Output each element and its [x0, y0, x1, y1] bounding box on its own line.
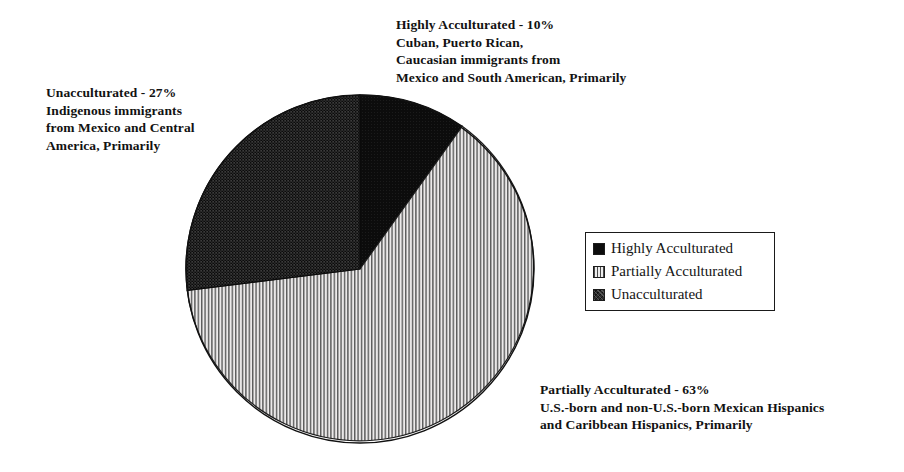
callout-highly-acculturated: Highly Acculturated - 10% Cuban, Puerto … — [396, 16, 626, 86]
pie-chart-figure: Unacculturated - 27% Indigenous immigran… — [0, 0, 904, 472]
legend-label-highly-acculturated: Highly Acculturated — [611, 240, 733, 257]
callout-partially-line-2: U.S.-born and non-U.S.-born Mexican Hisp… — [540, 399, 824, 417]
callout-unacculturated-line-2: Indigenous immigrants — [46, 102, 195, 120]
chart-legend: Highly Acculturated Partially Acculturat… — [585, 232, 775, 311]
callout-highly-line-2: Cuban, Puerto Rican, — [396, 34, 626, 52]
legend-swatch-highly-acculturated-icon — [593, 243, 605, 255]
legend-label-unacculturated: Unacculturated — [611, 286, 703, 303]
legend-label-partially-acculturated: Partially Acculturated — [611, 263, 742, 280]
legend-swatch-unacculturated-icon — [593, 289, 605, 301]
callout-highly-line-1: Highly Acculturated - 10% — [396, 16, 626, 34]
callout-unacculturated-line-3: from Mexico and Central — [46, 119, 195, 137]
pie-slice-unacculturated — [186, 95, 360, 290]
callout-unacculturated-line-4: America, Primarily — [46, 137, 195, 155]
pie-svg — [184, 93, 536, 445]
callout-highly-line-3: Caucasian immigrants from — [396, 51, 626, 69]
legend-swatch-partially-acculturated-icon — [593, 266, 605, 278]
pie-chart — [184, 93, 536, 445]
legend-item-partially-acculturated: Partially Acculturated — [593, 260, 768, 283]
callout-unacculturated: Unacculturated - 27% Indigenous immigran… — [46, 84, 195, 154]
callout-partially-line-1: Partially Acculturated - 63% — [540, 381, 824, 399]
callout-partially-acculturated: Partially Acculturated - 63% U.S.-born a… — [540, 381, 824, 434]
callout-partially-line-3: and Caribbean Hispanics, Primarily — [540, 416, 824, 434]
legend-item-unacculturated: Unacculturated — [593, 283, 768, 306]
legend-item-highly-acculturated: Highly Acculturated — [593, 237, 768, 260]
callout-unacculturated-line-1: Unacculturated - 27% — [46, 84, 195, 102]
callout-highly-line-4: Mexico and South American, Primarily — [396, 69, 626, 87]
pie-slices — [186, 95, 534, 441]
